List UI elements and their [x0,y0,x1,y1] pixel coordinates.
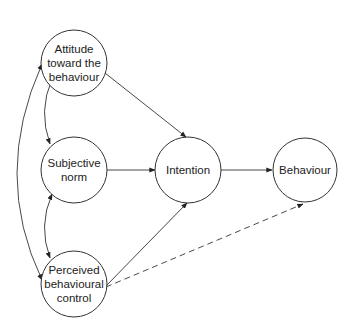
node-label-line: Subjective [47,157,100,169]
node-label-line: toward the [47,57,101,69]
edge-perceived-behaviour-dashed [106,204,303,287]
tpb-diagram: Attitude toward the behaviour Subjective… [0,0,351,335]
node-label-line: control [57,292,92,304]
node-label-line: norm [61,171,87,183]
node-label-line: Intention [166,164,210,176]
node-circle [41,137,107,203]
edge-perceived-intention [105,203,187,287]
node-perceived-control: Perceived behavioural control [41,251,107,317]
edge-attitude-subjective-correlation [44,79,52,144]
edge-attitude-perceived-correlation [17,64,42,280]
node-label-line: Attitude [55,43,94,55]
node-label-line: behaviour [49,71,100,83]
node-attitude: Attitude toward the behaviour [41,30,107,96]
edge-attitude-intention [105,73,186,137]
node-label-line: Behaviour [279,164,331,176]
node-label-line: behavioural [44,278,103,290]
edge-subjective-perceived-correlation [44,194,52,258]
node-intention: Intention [155,137,221,203]
node-label-line: Perceived [48,264,99,276]
node-subjective-norm: Subjective norm [41,137,107,203]
node-behaviour: Behaviour [273,138,337,202]
